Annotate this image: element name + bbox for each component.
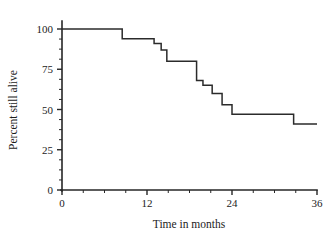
- y-tick-label: 50: [42, 104, 54, 116]
- chart-container: 0255075100 0122436 Time in months Percen…: [0, 0, 336, 235]
- survival-curve: [62, 29, 317, 124]
- x-axis-title: Time in months: [153, 218, 226, 230]
- survival-chart: 0255075100 0122436 Time in months Percen…: [0, 0, 336, 235]
- y-tick-label: 100: [37, 23, 54, 35]
- x-tick-label: 24: [227, 197, 239, 209]
- y-axis-tick-labels: 0255075100: [37, 23, 54, 196]
- y-tick-label: 0: [48, 184, 54, 196]
- y-tick-label: 25: [42, 144, 54, 156]
- x-tick-label: 0: [59, 197, 65, 209]
- x-tick-label: 12: [142, 197, 153, 209]
- y-tick-label: 75: [42, 63, 54, 75]
- x-axis-tick-labels: 0122436: [59, 197, 323, 209]
- x-tick-label: 36: [312, 197, 324, 209]
- y-axis-title: Percent still alive: [7, 70, 19, 150]
